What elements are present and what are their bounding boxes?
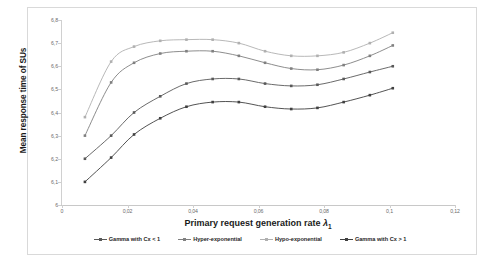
- y-axis-tick-mark: [58, 136, 61, 137]
- y-axis-tick-mark: [58, 113, 61, 114]
- data-point-marker: [369, 94, 372, 97]
- data-point-marker: [342, 101, 345, 104]
- x-axis-title: Primary request generation rate λ1: [61, 218, 455, 230]
- legend-item[interactable]: Hyper-exponential: [178, 236, 242, 243]
- series-gamma-with-cx-1: [84, 65, 394, 160]
- chart-legend: Gamma with Cx < 1Hyper-exponentialHypo-e…: [30, 236, 470, 243]
- legend-item[interactable]: Gamma with Cx < 1: [94, 236, 160, 243]
- chart-figure: Mean response time of SUs 66,16,26,36,46…: [0, 0, 487, 263]
- y-axis-tick-label: 6,2: [36, 156, 58, 162]
- x-axis-tick-label: 0,06: [247, 208, 271, 214]
- data-point-marker: [238, 42, 241, 45]
- y-axis-tick-mark: [58, 20, 61, 21]
- data-point-marker: [185, 82, 188, 85]
- data-point-marker: [133, 111, 136, 114]
- data-point-marker: [159, 95, 162, 98]
- series-canvas: [62, 20, 455, 206]
- data-point-marker: [185, 38, 188, 41]
- data-point-marker: [110, 60, 113, 63]
- legend-item[interactable]: Gamma with Cx > 1: [340, 236, 406, 243]
- data-point-marker: [264, 105, 267, 108]
- legend-swatch-icon: [260, 236, 273, 243]
- data-point-marker: [290, 67, 293, 70]
- data-point-marker: [110, 134, 113, 137]
- x-axis-tick-label: 0,02: [116, 208, 140, 214]
- x-axis-tick-label: 0,1: [378, 208, 402, 214]
- series-hypo-exponential: [84, 31, 394, 118]
- data-point-marker: [211, 50, 214, 53]
- data-point-marker: [238, 78, 241, 81]
- data-point-marker: [238, 55, 241, 58]
- data-point-marker: [84, 157, 87, 160]
- data-point-marker: [211, 38, 214, 41]
- data-point-marker: [391, 31, 394, 34]
- data-point-marker: [133, 133, 136, 136]
- legend-item[interactable]: Hypo-exponential: [260, 236, 322, 243]
- legend-item-label: Gamma with Cx > 1: [355, 236, 406, 243]
- legend-item-label: Hypo-exponential: [275, 236, 322, 243]
- data-point-marker: [84, 181, 87, 184]
- data-point-marker: [316, 83, 319, 86]
- x-axis-tick-label: 0: [50, 208, 74, 214]
- y-axis-tick-label: 6,8: [36, 17, 58, 23]
- data-point-marker: [369, 71, 372, 74]
- series-hyper-exponential: [84, 44, 394, 137]
- data-point-marker: [264, 61, 267, 64]
- data-point-marker: [110, 156, 113, 159]
- data-point-marker: [264, 82, 267, 85]
- y-axis-tick-label: 6,1: [36, 179, 58, 185]
- data-point-marker: [159, 52, 162, 55]
- x-axis-tick-mark: [455, 205, 456, 208]
- data-point-marker: [133, 61, 136, 64]
- data-point-marker: [290, 85, 293, 88]
- legend-item-label: Gamma with Cx < 1: [109, 236, 160, 243]
- data-point-marker: [369, 55, 372, 58]
- y-axis-tick-mark: [58, 43, 61, 44]
- data-point-marker: [110, 81, 113, 84]
- data-point-marker: [159, 40, 162, 43]
- y-axis-tick-mark: [58, 66, 61, 67]
- data-point-marker: [391, 65, 394, 68]
- data-point-marker: [342, 78, 345, 81]
- data-point-marker: [185, 50, 188, 53]
- lambda-subscript: 1: [328, 223, 332, 230]
- data-point-marker: [84, 134, 87, 137]
- y-axis-tick-label: 6,4: [36, 110, 58, 116]
- legend-item-label: Hyper-exponential: [193, 236, 242, 243]
- y-axis-tick-labels: 66,16,26,36,46,56,66,76,8: [33, 0, 58, 263]
- y-axis-tick-label: 6,5: [36, 86, 58, 92]
- data-point-marker: [391, 44, 394, 47]
- y-axis-tick-label: 6,6: [36, 63, 58, 69]
- y-axis-tick-mark: [58, 205, 61, 206]
- legend-swatch-icon: [178, 236, 191, 243]
- data-point-marker: [316, 68, 319, 71]
- data-point-marker: [316, 107, 319, 110]
- legend-swatch-icon: [340, 236, 353, 243]
- data-point-marker: [211, 78, 214, 81]
- data-point-marker: [316, 55, 319, 58]
- series-line: [85, 33, 393, 117]
- y-axis-tick-label: 6,3: [36, 133, 58, 139]
- y-axis-tick-mark: [58, 159, 61, 160]
- data-point-marker: [391, 87, 394, 90]
- data-point-marker: [290, 55, 293, 58]
- data-point-marker: [264, 50, 267, 53]
- data-point-marker: [84, 116, 87, 119]
- data-point-marker: [211, 101, 214, 104]
- y-axis-tick-mark: [58, 89, 61, 90]
- y-axis-title: Mean response time of SUs: [19, 31, 28, 171]
- x-axis-tick-label: 0,04: [181, 208, 205, 214]
- series-line: [85, 45, 393, 135]
- data-point-marker: [133, 45, 136, 48]
- x-axis-title-text: Primary request generation rate: [184, 218, 320, 228]
- y-axis-tick-label: 6,7: [36, 40, 58, 46]
- data-point-marker: [290, 108, 293, 111]
- legend-swatch-icon: [94, 236, 107, 243]
- data-point-marker: [185, 105, 188, 108]
- data-point-marker: [342, 51, 345, 54]
- data-point-marker: [369, 42, 372, 45]
- data-point-marker: [342, 64, 345, 67]
- x-axis-tick-label: 0,08: [312, 208, 336, 214]
- y-axis-tick-mark: [58, 182, 61, 183]
- data-point-marker: [159, 117, 162, 120]
